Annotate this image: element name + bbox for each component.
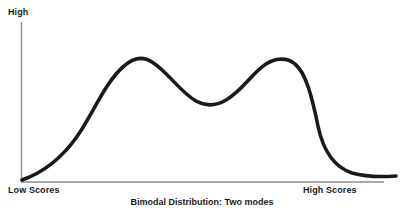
x-axis-left-label: Low Scores [8,186,60,195]
distribution-curve [22,59,396,180]
x-axis-right-label: High Scores [303,186,357,195]
chart-caption: Bimodal Distribution: Two modes [0,198,404,207]
y-axis-top-label: High [8,8,28,17]
chart-figure: High Low Scores High Scores Bimodal Dist… [0,0,404,211]
chart-plot-area [0,0,404,211]
